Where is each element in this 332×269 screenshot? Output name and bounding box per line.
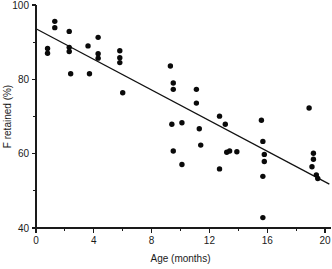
- data-point: [171, 87, 176, 92]
- data-point: [315, 176, 320, 181]
- data-point: [309, 164, 314, 169]
- data-point: [67, 29, 72, 34]
- data-point: [311, 157, 316, 162]
- plot-canvas: 406080100048121620Age (months)F retained…: [0, 0, 332, 269]
- data-point: [234, 149, 239, 154]
- data-point: [45, 46, 50, 51]
- data-point: [95, 35, 100, 40]
- data-point: [217, 113, 222, 118]
- data-point: [260, 215, 265, 220]
- data-point: [120, 90, 125, 95]
- data-point: [52, 19, 57, 24]
- data-point: [117, 48, 122, 53]
- x-tick-label: 20: [319, 235, 331, 246]
- data-point: [194, 100, 199, 105]
- y-axis-title: F retained (%): [2, 85, 13, 148]
- data-point: [259, 118, 264, 123]
- data-point: [45, 51, 50, 56]
- data-point: [95, 55, 100, 60]
- data-point: [262, 152, 267, 157]
- data-point: [306, 105, 311, 110]
- y-tick-label: 80: [18, 74, 30, 85]
- data-point: [179, 162, 184, 167]
- data-point: [117, 55, 122, 60]
- x-tick-label: 4: [91, 235, 97, 246]
- data-point: [117, 60, 122, 65]
- data-point: [67, 49, 72, 54]
- regression-line-segment: [36, 29, 329, 184]
- data-point: [169, 122, 174, 127]
- x-tick-label: 16: [262, 235, 274, 246]
- data-point: [197, 126, 202, 131]
- x-tick-label: 8: [149, 235, 155, 246]
- data-point: [87, 71, 92, 76]
- data-point: [85, 43, 90, 48]
- data-point: [171, 80, 176, 85]
- data-point: [198, 142, 203, 147]
- data-point: [168, 63, 173, 68]
- axes-group: [32, 5, 332, 233]
- x-tick-label: 0: [33, 235, 39, 246]
- data-point: [68, 71, 73, 76]
- data-point: [311, 151, 316, 156]
- data-point: [262, 159, 267, 164]
- data-point: [194, 87, 199, 92]
- data-point: [260, 139, 265, 144]
- data-point: [223, 122, 228, 127]
- data-point: [260, 174, 265, 179]
- x-axis-title: Age (months): [150, 253, 210, 264]
- data-point: [179, 120, 184, 125]
- regression-line: [36, 29, 329, 184]
- scatter-plot-figure: 406080100048121620Age (months)F retained…: [0, 0, 332, 269]
- data-point: [171, 148, 176, 153]
- x-tick-label: 12: [204, 235, 216, 246]
- data-point: [227, 148, 232, 153]
- axis-labels-group: 406080100048121620Age (months)F retained…: [2, 0, 331, 264]
- y-tick-label: 60: [18, 148, 30, 159]
- data-point: [52, 25, 57, 30]
- y-tick-label: 100: [12, 0, 29, 11]
- y-tick-label: 40: [18, 223, 30, 234]
- data-point: [217, 166, 222, 171]
- data-points-group: [45, 19, 321, 221]
